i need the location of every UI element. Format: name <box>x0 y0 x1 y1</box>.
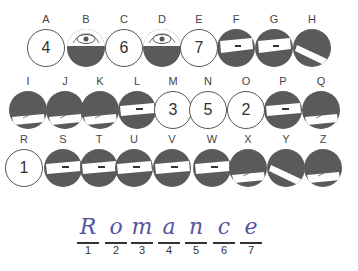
number-disc: 5 <box>189 91 227 129</box>
symbol-h: H <box>290 12 334 67</box>
band-diag-icon <box>293 29 331 67</box>
slot-index: 1 <box>76 244 100 256</box>
band-low-icon <box>304 149 342 187</box>
answer-slot-2: o2 <box>104 212 128 256</box>
symbol-z: Z <box>301 132 345 187</box>
number-disc: 4 <box>27 29 65 67</box>
band-low-icon <box>302 91 340 129</box>
symbol-letter: H <box>290 12 334 26</box>
handwritten-letter: o <box>104 212 128 242</box>
number-disc: 2 <box>227 91 265 129</box>
band-low-icon <box>81 91 119 129</box>
answer-slot-7: e7 <box>239 212 263 256</box>
answer-word: R1o2m3a4n5c6e7 <box>76 212 276 268</box>
handwritten-letter: n <box>184 212 208 242</box>
handwritten-letter: e <box>239 212 263 242</box>
symbol-letter: Z <box>301 132 345 146</box>
symbol-a: A4 <box>24 12 68 67</box>
symbol-letter: Q <box>299 74 343 88</box>
slot-index: 6 <box>212 244 236 256</box>
symbol-q: Q <box>299 74 343 129</box>
eye-icon <box>143 29 181 67</box>
band-low-icon <box>229 149 267 187</box>
handwritten-letter: m <box>130 212 154 242</box>
band-high-icon <box>217 29 255 67</box>
band-mid-icon <box>115 149 153 187</box>
disc-number: 1 <box>6 159 42 177</box>
slot-index: 2 <box>104 244 128 256</box>
disc-number: 4 <box>28 39 64 57</box>
answer-slot-6: c6 <box>212 212 236 256</box>
answer-slot-4: a4 <box>157 212 181 256</box>
answer-slot-3: m3 <box>130 212 154 256</box>
disc-number: 6 <box>106 39 142 57</box>
number-disc: 6 <box>105 29 143 67</box>
handwritten-letter: c <box>212 212 236 242</box>
answer-slot-5: n5 <box>184 212 208 256</box>
number-disc: 7 <box>180 29 218 67</box>
disc-number: 2 <box>228 101 264 119</box>
slot-index: 4 <box>157 244 181 256</box>
disc-number: 7 <box>181 39 217 57</box>
band-diag-icon <box>267 149 305 187</box>
slot-index: 7 <box>239 244 263 256</box>
handwritten-letter: R <box>76 212 100 242</box>
symbol-letter: A <box>24 12 68 26</box>
band-mid-icon <box>153 149 191 187</box>
band-mid-icon <box>264 91 302 129</box>
slot-index: 5 <box>184 244 208 256</box>
answer-slot-1: R1 <box>76 212 100 256</box>
symbol-letter: V <box>150 132 194 146</box>
band-low-icon <box>9 91 47 129</box>
symbol-letter: R <box>2 132 46 146</box>
symbol-r: R1 <box>2 132 46 187</box>
number-disc: 1 <box>5 149 43 187</box>
handwritten-letter: a <box>157 212 181 242</box>
eye-icon <box>67 29 105 67</box>
disc-number: 5 <box>190 101 226 119</box>
band-high-icon <box>255 29 293 67</box>
slot-index: 3 <box>130 244 154 256</box>
symbol-v: V <box>150 132 194 187</box>
